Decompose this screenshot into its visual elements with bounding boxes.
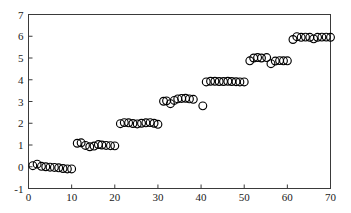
scatter-plot-figure: 010203040506070 -101234567 — [0, 0, 351, 213]
y-tick-label: 7 — [18, 9, 24, 21]
y-tick-label: 2 — [18, 117, 24, 129]
data-point — [29, 162, 37, 170]
y-tick-label: 1 — [18, 139, 24, 151]
y-tick-label: 4 — [18, 74, 24, 86]
x-tick-label: 50 — [239, 191, 251, 203]
x-tick-label: 20 — [109, 191, 121, 203]
x-tick-label: 10 — [66, 191, 78, 203]
x-tick-label: 30 — [152, 191, 164, 203]
y-tick-label: 5 — [18, 52, 24, 64]
data-point-markers — [29, 33, 334, 173]
x-tick-label: 70 — [325, 191, 337, 203]
y-tick-label: -1 — [14, 183, 23, 195]
x-axis-ticks — [29, 185, 331, 189]
y-tick-label: 3 — [18, 96, 24, 108]
plot-canvas: 010203040506070 -101234567 — [0, 0, 351, 213]
y-axis-tick-labels: -101234567 — [14, 9, 24, 195]
x-tick-label: 0 — [26, 191, 32, 203]
y-tick-label: 6 — [18, 30, 24, 42]
data-point — [199, 102, 207, 110]
x-axis-tick-labels: 010203040506070 — [26, 191, 337, 203]
x-tick-label: 40 — [196, 191, 208, 203]
x-tick-label: 60 — [282, 191, 294, 203]
y-tick-label: 0 — [18, 161, 24, 173]
